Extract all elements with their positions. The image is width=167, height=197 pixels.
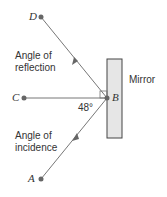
point-a-dot xyxy=(39,177,44,182)
point-a-label: A xyxy=(28,172,35,184)
point-d-label: D xyxy=(29,10,37,22)
point-c-label: C xyxy=(12,91,19,103)
mirror-label: Mirror xyxy=(129,74,155,86)
point-b-label: B xyxy=(112,91,119,103)
angle-value-label: 48° xyxy=(78,102,93,114)
point-c-dot xyxy=(22,96,27,101)
reflection-diagram xyxy=(0,0,167,197)
angle-of-reflection-label: Angle of reflection xyxy=(15,50,56,74)
reflected-arrow-icon xyxy=(72,57,78,65)
point-b-dot xyxy=(105,96,110,101)
point-d-dot xyxy=(39,15,44,20)
angle-of-incidence-label: Angle of incidence xyxy=(15,130,57,154)
